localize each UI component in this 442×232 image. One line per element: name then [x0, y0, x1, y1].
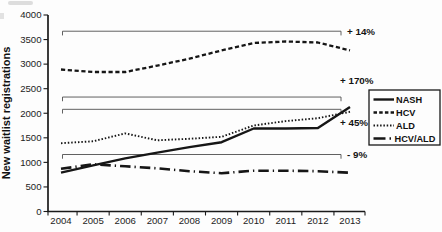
series-line-hcv	[61, 42, 350, 73]
x-tick-label: 2008	[179, 215, 200, 226]
legend-label-ald: ALD	[396, 121, 415, 131]
change-bracket-nash	[63, 97, 342, 101]
waitlist-registrations-figure: New waitlist registrations 0500100015002…	[0, 0, 442, 232]
x-tick-label: 2009	[211, 215, 232, 226]
legend-label-nash: NASH	[396, 95, 422, 105]
pct-change-label-hcv-ald: - 9%	[347, 149, 367, 160]
x-tick-label: 2010	[243, 215, 264, 226]
x-tick-label: 2012	[307, 215, 328, 226]
legend-label-hcv: HCV	[396, 108, 416, 118]
y-tick-label: 1000	[20, 157, 41, 168]
y-tick-label: 2000	[20, 108, 41, 119]
x-tick-label: 2005	[82, 215, 103, 226]
line-chart-canvas: New waitlist registrations 0500100015002…	[0, 0, 442, 232]
y-tick-label: 3000	[20, 58, 41, 69]
change-bracket-hcv-ald	[63, 155, 342, 159]
x-tick-label: 2013	[339, 215, 360, 226]
change-bracket-hcv	[63, 31, 342, 35]
data-series	[61, 42, 350, 174]
pct-change-label-hcv: + 14%	[347, 26, 375, 37]
axis-lines	[48, 15, 365, 212]
y-tick-label: 3500	[20, 34, 41, 45]
scan-artifact	[8, 1, 33, 5]
x-tick-label: 2007	[147, 215, 168, 226]
x-tick-label: 2011	[275, 215, 296, 226]
pct-change-label-nash: + 170%	[340, 75, 374, 86]
series-line-nash	[61, 107, 350, 173]
annotation-brackets: + 14%+ 170%+ 45%- 9%	[63, 26, 376, 160]
change-bracket-ald	[63, 109, 342, 113]
y-tick-label: 500	[25, 181, 41, 192]
scan-artifact	[0, 13, 4, 19]
legend: NASH HCV ALD HCV/ALD	[369, 90, 440, 145]
y-tick-label: 4000	[20, 9, 41, 20]
y-tick-label: 0	[36, 206, 41, 217]
x-tick-label: 2006	[115, 215, 136, 226]
pct-change-label-ald: + 45%	[340, 117, 368, 128]
x-tick-label: 2004	[50, 215, 72, 226]
y-tick-label: 2500	[20, 83, 41, 94]
legend-label-hcv-ald: HCV/ALD	[395, 134, 436, 144]
series-line-hcv-ald	[61, 164, 350, 173]
y-tick-label: 1500	[20, 132, 41, 143]
y-axis-title: New waitlist registrations	[0, 47, 12, 180]
